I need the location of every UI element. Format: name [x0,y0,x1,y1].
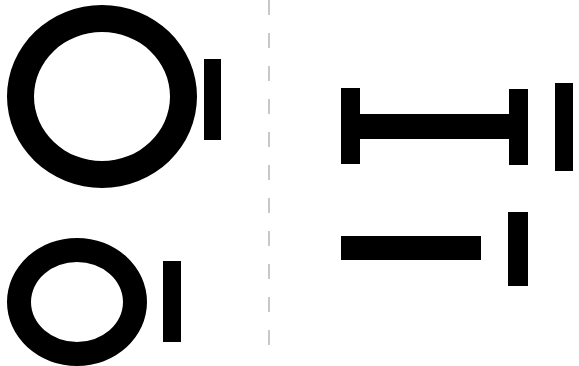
i-beam-right-bar [509,89,528,165]
small-i-glyph: I [163,261,181,342]
i-beam-left-bar [341,88,360,164]
tall-i-glyph: I [555,83,573,171]
dashed-divider [268,0,270,360]
i-beam-crossbar [359,114,510,139]
large-o-glyph: O [7,5,197,188]
large-i-glyph: I [204,59,221,140]
small-o-glyph: O [7,238,147,366]
lower-i-glyph: I [508,212,528,286]
horizontal-bar-glyph: – [341,236,481,260]
